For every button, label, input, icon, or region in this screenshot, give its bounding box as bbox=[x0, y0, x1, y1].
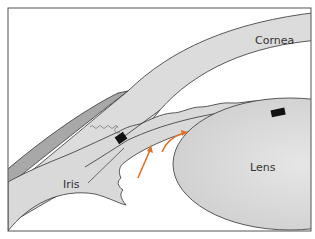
label-iris: Iris bbox=[63, 178, 80, 191]
eye-anatomy-diagram: Cornea Iris Lens bbox=[0, 0, 315, 239]
label-cornea: Cornea bbox=[255, 34, 294, 47]
label-lens: Lens bbox=[250, 161, 276, 174]
